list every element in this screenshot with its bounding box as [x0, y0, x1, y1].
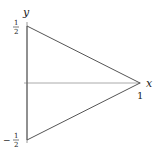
y-tick-neg-half: − 1 2 [3, 132, 19, 149]
svg-text:1: 1 [14, 19, 18, 27]
x-tick-1: 1 [137, 90, 143, 101]
x-axis-label: x [146, 77, 153, 90]
triangle-diagram: y x 1 1 2 − 1 2 [0, 0, 162, 156]
svg-text:−: − [3, 135, 11, 145]
y-axis-label: y [22, 6, 30, 19]
svg-text:2: 2 [14, 141, 18, 149]
svg-text:2: 2 [14, 28, 18, 36]
y-tick-half: 1 2 [13, 19, 19, 36]
svg-text:1: 1 [14, 132, 18, 140]
